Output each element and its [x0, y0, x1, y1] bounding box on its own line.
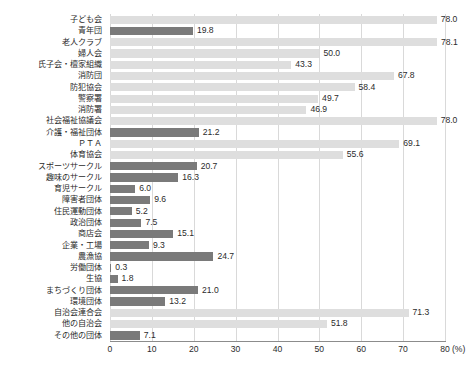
bar-row: 9.6: [110, 194, 445, 206]
bar-value-label: 46.9: [310, 104, 327, 116]
bar: [110, 297, 165, 305]
bar-value-label: 0.3: [115, 262, 127, 274]
category-label: 子ども会: [0, 14, 102, 26]
bar-value-label: 16.3: [182, 172, 199, 184]
category-label: 氏子会・檀家組織: [0, 59, 102, 71]
bar: [110, 162, 197, 170]
bar-row: 55.6: [110, 149, 445, 161]
bar: [110, 320, 327, 328]
bar-value-label: 20.7: [201, 161, 218, 173]
bar-row: 15.1: [110, 228, 445, 240]
bar-value-label: 13.2: [169, 296, 186, 308]
bar-row: 0.3: [110, 262, 445, 274]
x-axis-tick-labels: 01020304050607080: [110, 344, 445, 358]
bar-value-label: 67.8: [398, 70, 415, 82]
bar: [110, 128, 199, 136]
bar: [110, 309, 409, 317]
category-label: 介護・福祉団体: [0, 127, 102, 139]
bar-value-label: 58.4: [359, 82, 376, 94]
bar-value-label: 21.2: [203, 127, 220, 139]
x-tick-0: 0: [108, 344, 113, 354]
bar-value-label: 9.3: [153, 240, 165, 252]
bar-value-label: 78.0: [441, 115, 458, 127]
category-label: ＰＴＡ: [0, 138, 102, 150]
bar-row: 58.4: [110, 82, 445, 94]
bar: [110, 196, 150, 204]
x-tick-30: 30: [231, 344, 241, 354]
category-label: 他の自治会: [0, 318, 102, 330]
bar: [110, 49, 319, 57]
category-label: 農漁協: [0, 251, 102, 263]
category-label: 青年団: [0, 25, 102, 37]
category-label: 体育協会: [0, 149, 102, 161]
bar: [110, 207, 132, 215]
bar-row: 43.3: [110, 59, 445, 71]
bar-row: 21.0: [110, 285, 445, 297]
x-tick-40: 40: [273, 344, 283, 354]
category-label: まちづくり団体: [0, 285, 102, 297]
bar-row: 51.8: [110, 318, 445, 330]
category-label: 障害者団体: [0, 194, 102, 206]
bar-row: 20.7: [110, 161, 445, 173]
bar-row: 71.3: [110, 307, 445, 319]
bar: [110, 38, 437, 46]
category-label: 環境団体: [0, 296, 102, 308]
bar-value-label: 7.5: [145, 217, 157, 229]
category-label: 社会福祉協議会: [0, 115, 102, 127]
bar-value-label: 21.0: [202, 285, 219, 297]
bar-value-label: 50.0: [323, 48, 340, 60]
bar: [110, 230, 173, 238]
bar-value-label: 15.1: [177, 228, 194, 240]
x-tick-10: 10: [147, 344, 157, 354]
bar-value-label: 78.0: [441, 14, 458, 26]
bar-row: 21.2: [110, 127, 445, 139]
bar-row: 1.8: [110, 273, 445, 285]
bar-value-label: 19.8: [197, 25, 214, 37]
category-label: 育児サークル: [0, 183, 102, 195]
bar-value-label: 24.7: [217, 251, 234, 263]
bar: [110, 241, 149, 249]
bar: [110, 151, 343, 159]
category-label: 企業・工場: [0, 240, 102, 252]
bar-row: 5.2: [110, 206, 445, 218]
x-tick-80: 80: [440, 344, 450, 354]
bar: [110, 219, 141, 227]
x-tick-60: 60: [356, 344, 366, 354]
category-label: 趣味のサークル: [0, 172, 102, 184]
bar-row: 6.0: [110, 183, 445, 195]
bar: [110, 72, 394, 80]
bar-value-label: 1.8: [122, 273, 134, 285]
bar: [110, 252, 213, 260]
bar-value-label: 71.3: [413, 307, 430, 319]
bar-row: 19.8: [110, 25, 445, 37]
bar: [110, 185, 135, 193]
horizontal-bar-chart: 子ども会青年団老人クラブ婦人会氏子会・檀家組織消防団防犯協会警察署消防署社会福祉…: [0, 0, 473, 370]
bar: [110, 331, 140, 339]
x-tick-20: 20: [189, 344, 199, 354]
bar: [110, 95, 318, 103]
plot-area: 78.019.878.150.043.367.858.449.746.978.0…: [110, 14, 445, 341]
category-label: 住民運動団体: [0, 206, 102, 218]
category-label: 生協: [0, 273, 102, 285]
bar-row: 16.3: [110, 172, 445, 184]
category-label: 政治団体: [0, 217, 102, 229]
bar-row: 69.1: [110, 138, 445, 150]
bar-row: 78.1: [110, 37, 445, 49]
bar-row: 7.1: [110, 330, 445, 342]
bar-row: 78.0: [110, 14, 445, 26]
bar-row: 7.5: [110, 217, 445, 229]
bar: [110, 286, 198, 294]
category-label: その他の団体: [0, 330, 102, 342]
bar: [110, 106, 306, 114]
bar: [110, 264, 111, 272]
category-label: 婦人会: [0, 48, 102, 60]
bar-value-label: 6.0: [139, 183, 151, 195]
category-label: 警察署: [0, 93, 102, 105]
category-label: 労働団体: [0, 262, 102, 274]
gridline-80: [445, 14, 446, 341]
bar-value-label: 55.6: [347, 149, 364, 161]
bar-row: 46.9: [110, 104, 445, 116]
bar-value-label: 49.7: [322, 93, 339, 105]
x-axis-unit-label: (%): [452, 344, 465, 354]
bar: [110, 173, 178, 181]
